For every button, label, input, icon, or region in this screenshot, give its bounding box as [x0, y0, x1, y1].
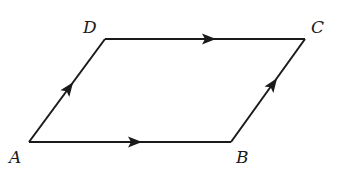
parallelogram-diagram: A B C D	[0, 0, 350, 174]
arrow-ad-icon	[60, 79, 77, 97]
label-c: C	[311, 17, 324, 37]
arrowheads	[60, 34, 281, 148]
edge-bc	[231, 39, 305, 142]
label-a: A	[7, 147, 21, 167]
label-b: B	[235, 147, 249, 167]
label-d: D	[82, 17, 97, 37]
